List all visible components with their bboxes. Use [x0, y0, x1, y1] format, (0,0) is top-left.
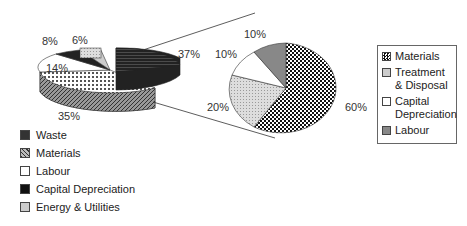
swatch-icon [382, 126, 391, 135]
legend-item-materials: Materials [20, 144, 135, 162]
swatch-icon [20, 166, 30, 176]
legend-item-waste: Waste [20, 126, 135, 144]
label-materials-breakdown: 60% [345, 101, 367, 113]
label-labour: 14% [46, 62, 68, 74]
label-materials: 35% [58, 110, 80, 122]
legend-item-capital-depreciation: Capital Depreciation [20, 180, 135, 198]
right-legend: Materials Treatment & Disposal Capital D… [377, 45, 457, 144]
label-capital: 8% [42, 35, 58, 47]
label-energy: 6% [72, 34, 88, 46]
swatch-icon [20, 184, 30, 194]
label-treatment: 20% [207, 101, 229, 113]
left-legend: Waste Materials Labour Capital Depreciat… [20, 126, 135, 216]
swatch-icon [20, 130, 30, 140]
label-labour-breakdown: 10% [244, 28, 266, 40]
legend-item-capital-breakdown: Capital Depreciation [382, 95, 452, 121]
legend-item-materials-breakdown: Materials [382, 50, 452, 63]
swatch-icon [382, 52, 391, 61]
swatch-icon [382, 97, 391, 106]
label-waste: 37% [178, 48, 200, 60]
swatch-icon [382, 68, 391, 77]
label-capital-breakdown: 10% [215, 48, 237, 60]
legend-item-labour-breakdown: Labour [382, 124, 452, 137]
swatch-icon [20, 202, 30, 212]
right-pie: 10% 10% 20% 60% [207, 28, 367, 133]
connector-top [143, 13, 255, 50]
legend-item-treatment: Treatment & Disposal [382, 66, 452, 92]
swatch-icon [20, 148, 30, 158]
legend-item-labour: Labour [20, 162, 135, 180]
legend-item-energy: Energy & Utilities [20, 198, 135, 216]
